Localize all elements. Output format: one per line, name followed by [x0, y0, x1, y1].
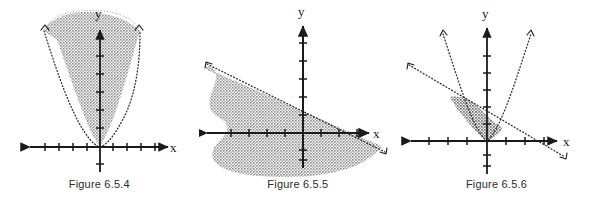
figure-6-5-6: x y Figure 6.5.6	[397, 0, 596, 216]
figure-6-5-5-plot: x y	[199, 0, 397, 182]
y-axis	[483, 28, 491, 174]
y-axis-label: y	[298, 4, 305, 19]
figures-panel: x y Figure 6.5.4	[0, 0, 596, 216]
figure-6-5-4: x y Figure 6.5.4	[0, 0, 199, 216]
figure-6-5-4-plot: x y	[0, 0, 198, 182]
x-axis-label: x	[373, 126, 380, 141]
figure-6-5-6-plot: x y	[397, 0, 595, 182]
x-axis-label: x	[170, 140, 177, 155]
y-axis-label: y	[482, 6, 489, 21]
x-axis-label: x	[563, 134, 570, 149]
y-axis-label: y	[95, 6, 102, 21]
figure-6-5-5: x y Figure 6.5.5	[199, 0, 398, 216]
shaded-region	[450, 96, 503, 141]
shaded-region	[44, 12, 140, 146]
shaded-region	[204, 66, 381, 177]
